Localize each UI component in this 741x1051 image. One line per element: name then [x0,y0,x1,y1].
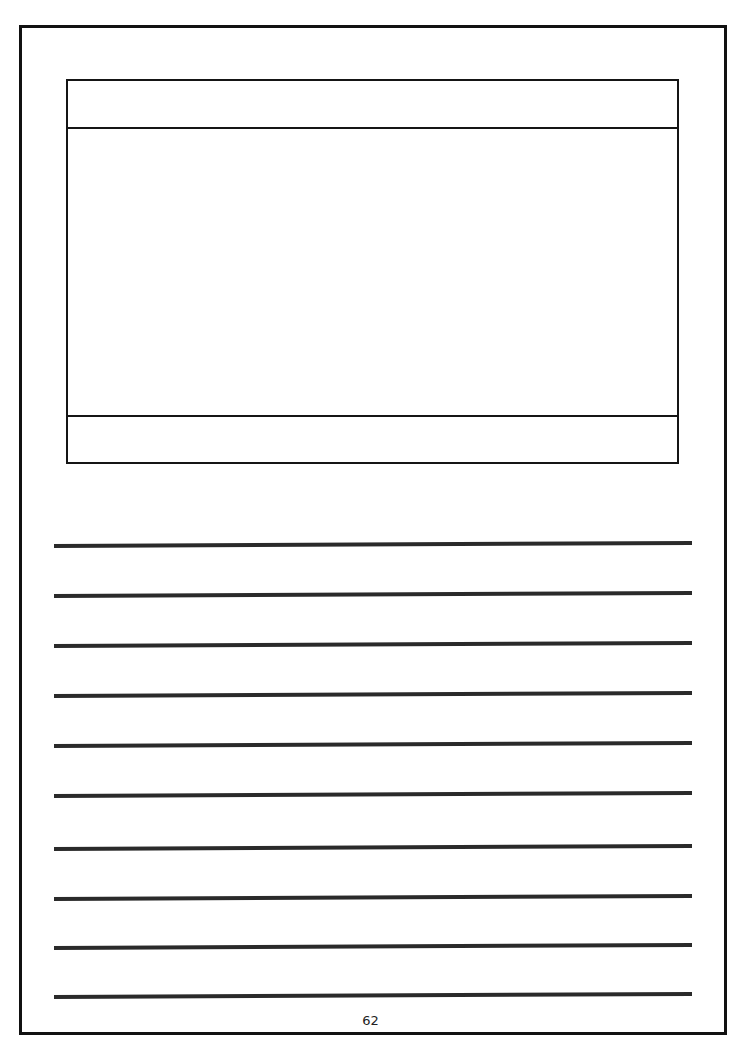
picture-frame [66,79,679,464]
page-number: 62 [0,1013,741,1028]
frame-title-box [68,81,677,129]
frame-caption-box [68,415,677,462]
